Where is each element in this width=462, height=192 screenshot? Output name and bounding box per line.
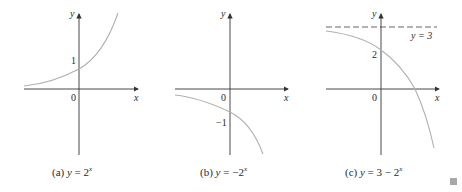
caption-exp: x [244, 165, 247, 173]
caption-exp: x [399, 165, 402, 173]
caption-eq: = [368, 166, 374, 178]
caption-c: (c) y = 3 − 2x [345, 165, 402, 178]
caption-rhs: 3 − 2 [377, 166, 400, 178]
caption-eq: = [75, 166, 81, 178]
curve-a [24, 13, 118, 86]
origin-label: 0 [71, 92, 76, 103]
caption-prefix: (b) [200, 166, 213, 178]
caption-exp: x [89, 165, 92, 173]
panel-b: y x 0 −1 [150, 0, 305, 192]
caption-rhs: −2 [232, 166, 244, 178]
caption-a: (a) y = 2x [52, 165, 92, 178]
caption-prefix: (c) [345, 166, 357, 178]
x-axis-label: x [283, 92, 289, 103]
y-axis-label: y [220, 8, 226, 19]
caption-lhs: y [360, 166, 365, 178]
tick-label: −1 [216, 117, 227, 128]
curve-c [326, 31, 434, 148]
panel-a: y x 0 1 [0, 0, 155, 192]
x-axis-label: x [133, 92, 139, 103]
graph-c: y x 0 2 y = 3 [300, 0, 462, 192]
graph-a: y x 0 1 [0, 0, 155, 192]
y-axis-label: y [371, 8, 377, 19]
end-of-example-square-icon [450, 178, 457, 185]
asymptote-label: y = 3 [410, 30, 432, 41]
caption-lhs: y [67, 166, 72, 178]
x-axis-label: x [434, 92, 440, 103]
caption-eq: = [223, 166, 229, 178]
caption-b: (b) y = −2x [200, 165, 247, 178]
tick-label: 1 [71, 55, 76, 66]
tick-label: 2 [372, 49, 377, 60]
y-axis-label: y [69, 8, 75, 19]
panel-c: y x 0 2 y = 3 [300, 0, 462, 192]
origin-label: 0 [372, 92, 377, 103]
caption-prefix: (a) [52, 166, 64, 178]
origin-label: 0 [221, 92, 226, 103]
graph-b: y x 0 −1 [150, 0, 305, 192]
caption-lhs: y [216, 166, 221, 178]
